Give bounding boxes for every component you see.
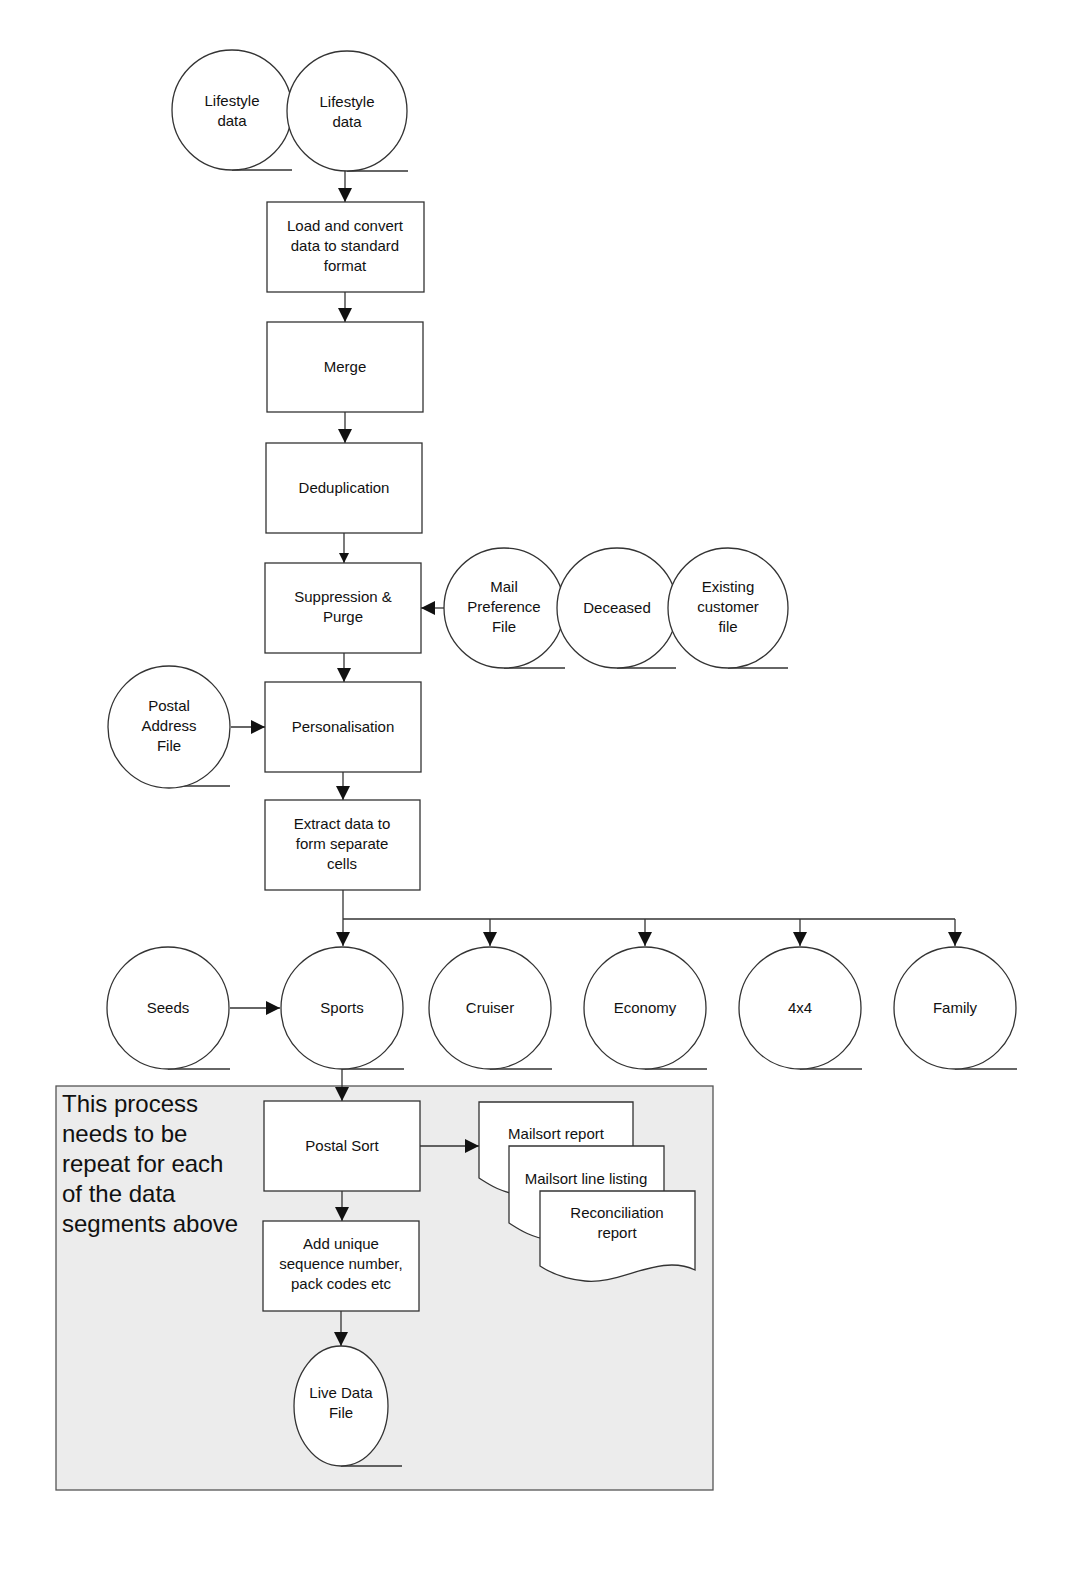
svg-text:report: report (597, 1224, 637, 1241)
svg-text:of the data: of the data (62, 1180, 176, 1207)
segment-sports[interactable]: Sports (281, 947, 404, 1069)
process-personalisation[interactable]: Personalisation (265, 682, 421, 772)
svg-text:form separate: form separate (296, 835, 389, 852)
segment-economy[interactable]: Economy (584, 947, 707, 1069)
flowchart-canvas: This process needs to be repeat for each… (0, 0, 1072, 1571)
svg-text:Preference: Preference (467, 598, 540, 615)
process-add-unique[interactable]: Add unique sequence number, pack codes e… (263, 1221, 419, 1311)
segment-4x4[interactable]: 4x4 (739, 947, 862, 1069)
svg-text:Economy: Economy (614, 999, 677, 1016)
segment-cruiser[interactable]: Cruiser (429, 947, 552, 1069)
svg-text:Mail: Mail (490, 578, 518, 595)
svg-text:format: format (324, 257, 367, 274)
svg-text:needs to be: needs to be (62, 1120, 187, 1147)
svg-text:Live Data: Live Data (309, 1384, 373, 1401)
svg-text:Seeds: Seeds (147, 999, 190, 1016)
svg-text:Lifestyle: Lifestyle (204, 92, 259, 109)
file-mail-preference[interactable]: Mail Preference File (444, 548, 565, 668)
svg-text:data: data (217, 112, 247, 129)
process-postal-sort[interactable]: Postal Sort (264, 1101, 420, 1191)
svg-text:Lifestyle: Lifestyle (319, 93, 374, 110)
segment-family[interactable]: Family (894, 947, 1017, 1069)
svg-text:Family: Family (933, 999, 978, 1016)
lifestyle-data-1[interactable]: Lifestyle data (172, 50, 292, 170)
process-load-convert[interactable]: Load and convert data to standard format (267, 202, 424, 292)
svg-text:cells: cells (327, 855, 357, 872)
svg-text:Cruiser: Cruiser (466, 999, 514, 1016)
svg-text:data to standard: data to standard (291, 237, 399, 254)
segment-seeds[interactable]: Seeds (107, 947, 230, 1069)
svg-text:This process: This process (62, 1090, 198, 1117)
svg-text:Mailsort report: Mailsort report (508, 1125, 605, 1142)
svg-text:segments above: segments above (62, 1210, 238, 1237)
svg-text:Mailsort line listing: Mailsort line listing (525, 1170, 648, 1187)
svg-text:Personalisation: Personalisation (292, 718, 395, 735)
svg-text:Merge: Merge (324, 358, 367, 375)
svg-text:Deduplication: Deduplication (299, 479, 390, 496)
svg-text:sequence number,: sequence number, (279, 1255, 402, 1272)
svg-text:File: File (492, 618, 516, 635)
process-suppression-purge[interactable]: Suppression & Purge (265, 563, 421, 653)
svg-text:Purge: Purge (323, 608, 363, 625)
svg-text:pack codes etc: pack codes etc (291, 1275, 392, 1292)
svg-text:4x4: 4x4 (788, 999, 812, 1016)
svg-text:customer: customer (697, 598, 759, 615)
svg-text:Postal: Postal (148, 697, 190, 714)
svg-text:Deceased: Deceased (583, 599, 651, 616)
svg-text:Extract data to: Extract data to (294, 815, 391, 832)
file-existing-customer[interactable]: Existing customer file (668, 548, 788, 668)
svg-text:file: file (718, 618, 737, 635)
svg-text:Sports: Sports (320, 999, 363, 1016)
svg-text:Postal Sort: Postal Sort (305, 1137, 379, 1154)
segment-distribution (343, 890, 955, 946)
svg-text:Suppression &: Suppression & (294, 588, 392, 605)
svg-text:Existing: Existing (702, 578, 755, 595)
svg-text:Reconciliation: Reconciliation (570, 1204, 663, 1221)
lifestyle-data-2[interactable]: Lifestyle data (287, 51, 408, 171)
process-merge[interactable]: Merge (267, 322, 423, 412)
file-deceased[interactable]: Deceased (557, 548, 677, 668)
svg-text:repeat for each: repeat for each (62, 1150, 223, 1177)
svg-text:Add unique: Add unique (303, 1235, 379, 1252)
process-deduplication[interactable]: Deduplication (266, 443, 422, 533)
file-postal-address[interactable]: Postal Address File (108, 666, 230, 788)
svg-text:data: data (332, 113, 362, 130)
svg-text:File: File (157, 737, 181, 754)
svg-text:File: File (329, 1404, 353, 1421)
svg-text:Load and convert: Load and convert (287, 217, 404, 234)
svg-text:Address: Address (141, 717, 196, 734)
process-extract-data[interactable]: Extract data to form separate cells (265, 800, 420, 890)
